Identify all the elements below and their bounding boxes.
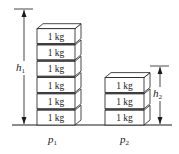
block-label: 1 kg [48, 97, 65, 107]
block-label: 1 kg [48, 64, 65, 74]
block-right-3: 1 kg [105, 73, 150, 93]
p2-label: p2 [119, 133, 130, 147]
h1-arrow-up-icon [22, 10, 27, 17]
block-left-6: 1 kg [37, 24, 81, 44]
block-label: 1 kg [48, 81, 65, 91]
block-label: 1 kg [48, 113, 65, 123]
h1-arrow-down-icon [22, 117, 27, 124]
left-stack: 1 kg1 kg1 kg1 kg1 kg1 kg [37, 24, 81, 125]
h1-dimension: h1 [14, 9, 33, 124]
block-label: 1 kg [116, 81, 133, 91]
diagram-canvas: 1 kg1 kg1 kg1 kg1 kg1 kg h1 p1 1 kg1 kg1… [0, 0, 179, 154]
h2-dimension: h2 [150, 66, 169, 124]
block-stacks-diagram: 1 kg1 kg1 kg1 kg1 kg1 kg h1 p1 1 kg1 kg1… [0, 0, 179, 154]
right-stack: 1 kg1 kg1 kg [105, 73, 150, 125]
h2-arrow-down-icon [158, 117, 163, 124]
block-label: 1 kg [48, 32, 65, 42]
block-label: 1 kg [116, 113, 133, 123]
p1-label: p1 [47, 133, 58, 147]
block-label: 1 kg [48, 48, 65, 58]
block-label: 1 kg [116, 97, 133, 107]
h2-arrow-up-icon [158, 67, 163, 74]
